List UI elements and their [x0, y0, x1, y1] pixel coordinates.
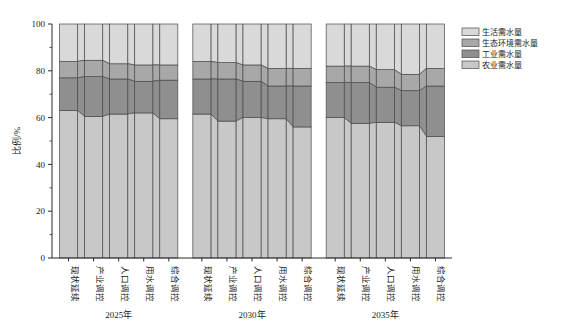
bar-segment-agriculture [193, 114, 211, 258]
bar-segment-eco [426, 68, 444, 86]
y-tick-label: 20 [36, 206, 46, 216]
bar-segment-agriculture [218, 121, 236, 258]
bar-segment-eco [193, 61, 211, 79]
bar-segment-domestic [426, 24, 444, 68]
bar-segment-industry [110, 79, 128, 114]
connector-agriculture [236, 118, 243, 258]
x-group-label: 2035年 [372, 309, 399, 320]
connector-industry [103, 77, 110, 117]
connector-eco [128, 64, 135, 82]
bar-segment-domestic [85, 24, 103, 60]
connector-domestic [369, 24, 376, 70]
bar-segment-industry [85, 77, 103, 117]
x-category-label: 综合调控 [170, 266, 180, 302]
bar-segment-eco [60, 61, 78, 77]
x-group-label: 2030年 [239, 309, 266, 320]
x-category-label: 现状延续 [203, 266, 213, 302]
connector-industry [261, 81, 268, 118]
bar-segment-eco [135, 65, 153, 81]
connector-agriculture [344, 118, 351, 258]
connector-domestic [261, 24, 268, 68]
bar-segment-domestic [376, 24, 394, 70]
connector-agriculture [261, 118, 268, 258]
legend-label: 生活需水量 [482, 27, 522, 37]
bar-segment-domestic [160, 24, 178, 65]
connector-eco [153, 65, 160, 81]
bar-segment-eco [160, 65, 178, 80]
bar-segment-agriculture [376, 122, 394, 258]
bar-segment-eco [110, 64, 128, 79]
connector-domestic [128, 24, 135, 65]
bar-segment-agriculture [243, 118, 261, 258]
connector-industry [153, 80, 160, 119]
legend-swatch [462, 39, 479, 47]
connector-industry [236, 79, 243, 121]
connector-industry [344, 83, 351, 124]
connector-eco [78, 60, 85, 78]
bar-segment-domestic [351, 24, 369, 66]
connector-domestic [78, 24, 85, 61]
connector-domestic [103, 24, 110, 64]
bar-segment-eco [293, 68, 311, 86]
connector-eco [236, 63, 243, 82]
bar-segment-domestic [293, 24, 311, 68]
connector-domestic [394, 24, 401, 74]
connector-industry [394, 87, 401, 126]
bar-segment-agriculture [293, 127, 311, 258]
connector-agriculture [153, 113, 160, 258]
connector-agriculture [286, 119, 293, 258]
bar-segment-industry [376, 87, 394, 122]
x-category-label: 用水调控 [411, 266, 421, 302]
bar-segment-eco [326, 66, 344, 82]
connector-agriculture [369, 122, 376, 258]
connector-domestic [286, 24, 293, 68]
bar-segment-agriculture [401, 126, 419, 258]
bar-segment-eco [268, 68, 286, 86]
bar-segment-eco [218, 63, 236, 79]
bar-segment-industry [401, 91, 419, 126]
bar-segment-agriculture [160, 119, 178, 258]
chart-canvas: 020406080100比例/%现状延续产业调控人口调控用水调控综合调控现状延续… [0, 0, 569, 336]
x-category-label: 产业调控 [361, 266, 371, 302]
y-tick-label: 60 [36, 113, 46, 123]
bar-segment-domestic [110, 24, 128, 64]
bar-segment-eco [376, 70, 394, 88]
connector-eco [103, 60, 110, 79]
bar-segment-industry [351, 83, 369, 124]
y-tick-label: 40 [36, 160, 46, 170]
bar-segment-eco [401, 74, 419, 90]
connector-domestic [153, 24, 160, 65]
y-tick-label: 0 [41, 253, 46, 263]
connector-agriculture [211, 114, 218, 258]
connector-industry [128, 79, 135, 114]
connector-agriculture [103, 114, 110, 258]
bar-segment-agriculture [326, 118, 344, 258]
legend-swatch [462, 61, 479, 69]
bar-segment-domestic [135, 24, 153, 65]
x-category-label: 现状延续 [336, 266, 346, 302]
legend-swatch [462, 28, 479, 36]
bar-segment-eco [351, 66, 369, 82]
bar-segment-agriculture [351, 123, 369, 258]
x-category-label: 现状延续 [70, 266, 80, 302]
bar-segment-agriculture [135, 113, 153, 258]
connector-domestic [344, 24, 351, 66]
bar-segment-agriculture [110, 114, 128, 258]
bar-segment-industry [326, 83, 344, 118]
x-category-label: 用水调控 [278, 266, 288, 302]
x-category-label: 用水调控 [145, 266, 155, 302]
bar-segment-domestic [60, 24, 78, 61]
x-group-label: 2025年 [105, 309, 132, 320]
bar-segment-industry [135, 81, 153, 113]
water-demand-stacked-bar-chart: 020406080100比例/%现状延续产业调控人口调控用水调控综合调控现状延续… [0, 0, 569, 336]
bar-segment-domestic [326, 24, 344, 66]
bar-segment-eco [243, 65, 261, 81]
connector-agriculture [128, 113, 135, 258]
bar-segment-agriculture [85, 116, 103, 258]
bar-segment-industry [160, 80, 178, 119]
connector-agriculture [394, 122, 401, 258]
connector-domestic [419, 24, 426, 74]
bar-segment-domestic [401, 24, 419, 74]
y-tick-label: 80 [36, 66, 46, 76]
bar-segment-agriculture [60, 111, 78, 258]
